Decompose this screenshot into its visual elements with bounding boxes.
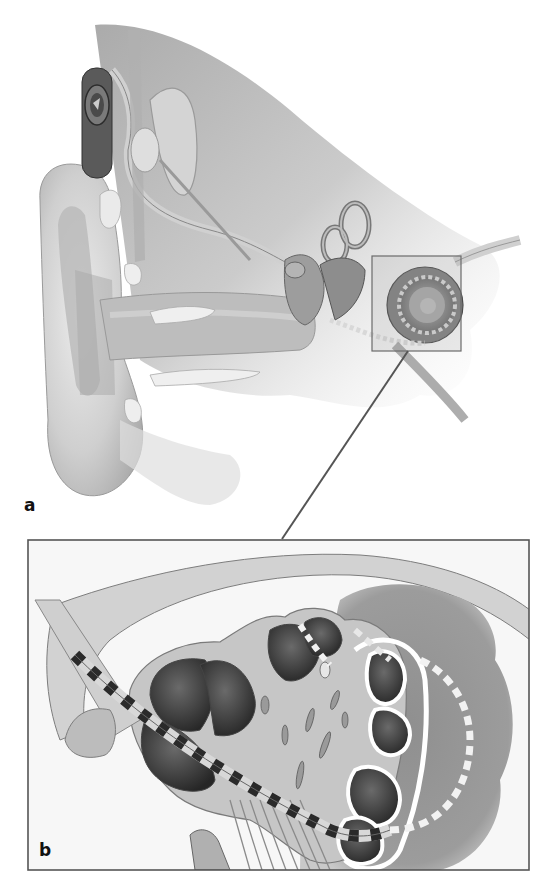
panel-label-b: b (39, 842, 51, 859)
cochlear-implant-illustration (0, 0, 549, 876)
panel-b-illustration (28, 540, 530, 870)
panel-a-illustration (40, 25, 520, 505)
panel-label-a: a (24, 497, 35, 514)
receiver-stimulator (82, 68, 112, 178)
zoom-box (372, 256, 461, 351)
